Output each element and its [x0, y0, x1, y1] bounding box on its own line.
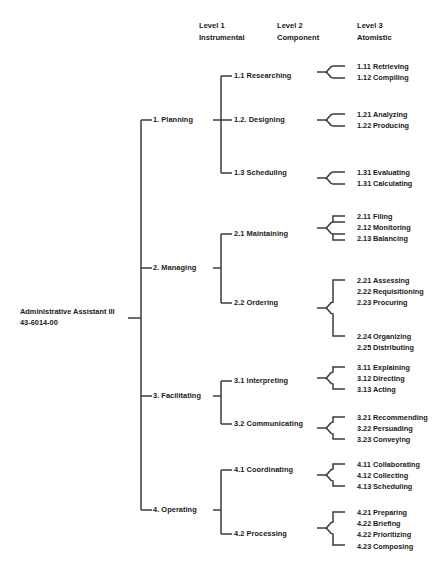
level3-item: 2.21Assessing — [357, 275, 424, 286]
level3-item-number: 1.11 — [357, 61, 373, 72]
root-node-title: Administrative Assistant III — [20, 306, 115, 317]
brace-42 — [325, 512, 345, 545]
brace-32 — [325, 417, 345, 439]
level3-item: 2.13Balancing — [357, 233, 411, 244]
level3-item-label: Procuring — [373, 298, 407, 307]
level3-item-number: 3.13 — [357, 384, 373, 395]
brace-12 — [325, 114, 345, 126]
level2-node-scheduling: 1.3 Scheduling — [234, 168, 287, 179]
level3-item-number: 1.22 — [357, 120, 373, 131]
level2-node-communicating: 3.2 Communicating — [234, 419, 303, 430]
level3-group-coordinating: 4.11Collaborating 4.12Collecting 4.13Sch… — [357, 459, 420, 493]
level3-item: 3.22Persuading — [357, 423, 428, 434]
level3-item-label: Prioritizing — [373, 530, 411, 539]
root-node: Administrative Assistant III 43-6014-00 — [20, 306, 115, 329]
level3-item-number: 3.12 — [357, 373, 373, 384]
level3-item-label: Explaining — [373, 363, 410, 372]
level1-node-managing: 2. Managing — [153, 263, 196, 274]
brace-22 — [325, 280, 345, 336]
level3-item: 3.13Acting — [357, 384, 410, 395]
level3-item-label: Preparing — [373, 508, 407, 517]
brace-11 — [325, 66, 345, 78]
column-header-level3-line2: Atomistic — [357, 32, 392, 44]
level3-group-maintaining: 2.11Filing 2.12Monitoring 2.13Balancing — [357, 211, 411, 245]
brace-31 — [325, 367, 345, 389]
level3-item-label: Assessing — [373, 276, 410, 285]
level3-item-label: Distributing — [373, 343, 414, 352]
level3-item-number: 4.11 — [357, 459, 373, 470]
level3-item-label: Briefing — [373, 519, 401, 528]
level3-group-scheduling: 1.31Evaluating 1.31Calculating — [357, 167, 412, 189]
level3-item-label: Acting — [373, 385, 396, 394]
level3-item-label: Scheduling — [373, 482, 412, 491]
level3-item-number: 2.13 — [357, 233, 373, 244]
column-header-level1-line2: Instrumental — [199, 32, 245, 44]
level3-item-label: Organizing — [373, 332, 411, 341]
level3-item: 1.11Retrieving — [357, 61, 409, 72]
brace-41 — [325, 464, 345, 486]
level3-item-number: 1.31 — [357, 178, 373, 189]
brace-21-ext — [333, 216, 345, 240]
level3-item-number: 2.21 — [357, 275, 373, 286]
level3-item: 4.12Collecting — [357, 470, 420, 481]
level3-item: 4.21Preparing — [357, 507, 413, 518]
level3-group-communicating: 3.21Recommending 3.22Persuading 3.23Conv… — [357, 412, 428, 446]
level3-item: 2.23Procuring — [357, 297, 424, 308]
level3-item: 4.11Collaborating — [357, 459, 420, 470]
level3-item-number: 3.23 — [357, 434, 373, 445]
level3-item-number: 3.22 — [357, 423, 373, 434]
level3-item: 1.22Producing — [357, 120, 409, 131]
level3-item: 1.12Compiling — [357, 72, 409, 83]
level3-item: 2.25Distributing — [357, 342, 414, 353]
level3-item-number: 2.23 — [357, 297, 373, 308]
level3-item-label: Filing — [373, 212, 392, 221]
level3-item: 3.21Recommending — [357, 412, 428, 423]
level3-item-label: Composing — [373, 542, 413, 551]
level1-node-planning: 1. Planning — [153, 115, 193, 126]
column-header-level2-line1: Level 2 — [277, 20, 319, 32]
level3-item-number: 2.22 — [357, 286, 373, 297]
level3-group-researching: 1.11Retrieving 1.12Compiling — [357, 61, 409, 83]
level1-node-operating: 4. Operating — [153, 505, 197, 516]
level3-item-number: 4.22 — [357, 518, 373, 529]
level3-item-label: Collaborating — [373, 460, 420, 469]
level3-item-number: 4.12 — [357, 470, 373, 481]
level3-item-label: Monitoring — [373, 223, 411, 232]
level3-item: 3.11Explaining — [357, 362, 410, 373]
org-hierarchy-diagram: Level 1 Instrumental Level 2 Component L… — [0, 0, 448, 568]
level2-node-researching: 1.1 Researching — [234, 71, 291, 82]
level2-node-ordering: 2.2 Ordering — [234, 298, 278, 309]
level3-item-number: 3.21 — [357, 412, 373, 423]
level1-node-facilitating: 3. Facilitating — [153, 391, 201, 402]
level3-item: 3.23Conveying — [357, 434, 428, 445]
level3-item-number: 1.21 — [357, 109, 373, 120]
level2-node-maintaining: 2.1 Maintaining — [234, 229, 288, 240]
level3-item-number: 2.11 — [357, 211, 373, 222]
level3-item: 2.22Requisitioning — [357, 286, 424, 297]
level3-item: 2.24Organizing — [357, 331, 414, 342]
level3-item: 3.12Directing — [357, 373, 410, 384]
level2-node-coordinating: 4.1 Coordinating — [234, 465, 293, 476]
root-node-code: 43-6014-00 — [20, 317, 115, 328]
level3-item-number: 4.22 — [357, 529, 373, 540]
level3-group-ordering-b: 2.24Organizing 2.25Distributing — [357, 331, 414, 353]
level3-item-number: 1.31 — [357, 167, 373, 178]
level3-item-number: 4.23 — [357, 541, 373, 552]
level3-item-number: 3.11 — [357, 362, 373, 373]
level3-item: 2.11Filing — [357, 211, 411, 222]
level3-group-designing: 1.21Analyzing 1.22Producing — [357, 109, 409, 131]
level3-item-label: Analyzing — [373, 110, 407, 119]
level3-item: 1.21Analyzing — [357, 109, 409, 120]
level3-item-number: 2.25 — [357, 342, 373, 353]
level3-item-label: Conveying — [373, 435, 410, 444]
column-header-level2-line2: Component — [277, 32, 319, 44]
level2-node-processing: 4.2 Processing — [234, 529, 287, 540]
column-header-level3-line1: Level 3 — [357, 20, 392, 32]
level3-item: 4.23Composing — [357, 541, 413, 552]
column-header-level1: Level 1 Instrumental — [199, 20, 245, 43]
column-header-level1-line1: Level 1 — [199, 20, 245, 32]
level3-item-number: 1.12 — [357, 72, 373, 83]
level3-item: 2.12Monitoring — [357, 222, 411, 233]
level3-item-number: 2.12 — [357, 222, 373, 233]
level3-item-label: Directing — [373, 374, 405, 383]
